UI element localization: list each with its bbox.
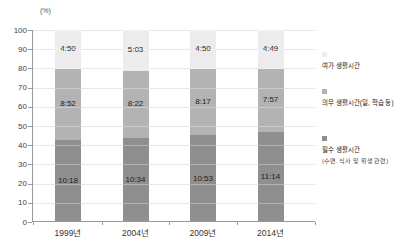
legend-sublabel: (수면, 식사 및 위생 관련) [322, 157, 388, 165]
gridline-overlay [33, 203, 315, 204]
y-axis-tick-label: 80 [1, 64, 27, 73]
x-axis-category-label: 2004년 [114, 228, 158, 238]
gridline-overlay [33, 68, 315, 69]
bar-value-label: 5:03 [117, 46, 155, 54]
y-axis-tick-label: 90 [1, 45, 27, 54]
gridline-overlay [33, 126, 315, 127]
y-axis-tick-label: 60 [1, 102, 27, 111]
x-axis-category-label: 1999년 [46, 228, 90, 238]
gridline-overlay [33, 184, 315, 185]
legend-item-essential-time: 필수 생활시간 (수면, 식사 및 위생 관련) [322, 136, 388, 165]
gridline-overlay [33, 49, 315, 50]
y-axis-tick-label: 30 [1, 160, 27, 169]
gridline-overlay [33, 164, 315, 165]
gridline-overlay [33, 145, 315, 146]
y-axis-tick [28, 126, 32, 127]
leisure-time-swatch [322, 52, 327, 57]
x-axis-line [32, 221, 315, 222]
legend-item-obligatory-time: 의무 생활시간(일, 학습 등) [322, 89, 394, 107]
x-axis-tick [33, 222, 34, 225]
y-axis-tick [28, 184, 32, 185]
y-axis-tick [28, 203, 32, 204]
gridline-overlay [33, 107, 315, 108]
x-axis-category-label: 2014년 [249, 228, 293, 238]
essential-time-swatch [322, 136, 327, 141]
legend-label: 여가 생활시간 [322, 62, 360, 70]
x-axis-tick [237, 222, 238, 225]
y-axis-tick-label: 40 [1, 141, 27, 150]
bar-value-label: 11:14 [252, 173, 290, 181]
y-axis-tick-label: 0 [1, 218, 27, 227]
y-axis-tick-label: 70 [1, 83, 27, 92]
x-axis-tick [315, 222, 316, 225]
x-axis-tick [102, 222, 103, 225]
bar-value-label: 10:53 [184, 175, 222, 183]
legend-item-leisure-time: 여가 생활시간 [322, 52, 360, 70]
bar-value-label: 10:34 [117, 176, 155, 184]
x-axis-tick [169, 222, 170, 225]
y-axis-tick [28, 68, 32, 69]
y-axis-tick [28, 107, 32, 108]
gridline-overlay [33, 88, 315, 89]
y-axis-tick [28, 88, 32, 89]
time-use-stacked-bar-chart: (%) 10:188:524:5010:348:225:0310:538:174… [0, 0, 396, 250]
y-axis-tick [28, 145, 32, 146]
y-axis-tick-label: 50 [1, 122, 27, 131]
y-axis-unit-label: (%) [40, 7, 51, 14]
y-axis-tick [28, 49, 32, 50]
y-axis-tick-label: 20 [1, 179, 27, 188]
legend-label: 의무 생활시간(일, 학습 등) [322, 99, 394, 107]
plot-area: 10:188:524:5010:348:225:0310:538:174:501… [33, 30, 315, 222]
legend-label: 필수 생활시간 [322, 146, 388, 154]
bar-value-label: 8:17 [184, 98, 222, 106]
legend: 여가 생활시간 의무 생활시간(일, 학습 등) 필수 생활시간 (수면, 식사… [322, 0, 396, 250]
y-axis-line [32, 30, 33, 222]
y-axis-tick [28, 164, 32, 165]
obligatory-time-swatch [322, 89, 327, 94]
x-axis-category-label: 2009년 [181, 228, 225, 238]
y-axis-tick [28, 222, 32, 223]
gridline-overlay [33, 30, 315, 31]
y-axis-tick [28, 30, 32, 31]
y-axis-tick-label: 100 [1, 26, 27, 35]
y-axis-tick-label: 10 [1, 198, 27, 207]
bar-value-label: 7:57 [252, 96, 290, 104]
